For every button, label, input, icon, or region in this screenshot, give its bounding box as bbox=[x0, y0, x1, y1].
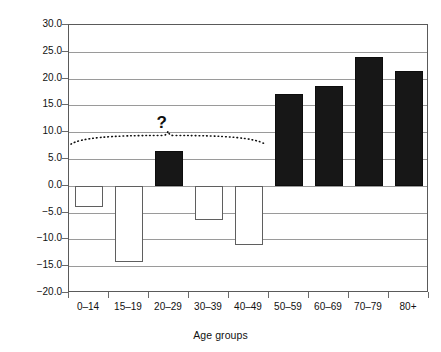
x-tick-label: 15–19 bbox=[108, 301, 148, 313]
bar-80+ bbox=[395, 71, 423, 186]
x-tick-label: 40–49 bbox=[228, 301, 268, 313]
gridline bbox=[69, 52, 427, 53]
y-tick-label: 20.0 bbox=[18, 73, 62, 83]
x-tick-label: 0–14 bbox=[68, 301, 108, 313]
x-tick-mark bbox=[108, 292, 109, 298]
bar-20-29 bbox=[155, 151, 183, 185]
y-tick-mark bbox=[62, 158, 68, 159]
x-tick-label: 20–29 bbox=[148, 301, 188, 313]
x-tick-mark bbox=[388, 292, 389, 298]
x-tick-mark bbox=[428, 292, 429, 298]
question-mark-annotation: ? bbox=[157, 114, 167, 131]
x-tick-mark bbox=[348, 292, 349, 298]
bar-50-59 bbox=[275, 94, 303, 186]
x-tick-mark bbox=[68, 292, 69, 298]
y-tick-mark bbox=[62, 24, 68, 25]
x-tick-mark bbox=[228, 292, 229, 298]
y-tick-label: 25.0 bbox=[18, 46, 62, 56]
x-axis-title: Age groups bbox=[0, 329, 441, 341]
y-tick-mark bbox=[62, 212, 68, 213]
y-tick-label: −15.0 bbox=[18, 260, 62, 270]
x-tick-label: 30–39 bbox=[188, 301, 228, 313]
bar-70-79 bbox=[355, 57, 383, 186]
bar-15-19 bbox=[115, 186, 143, 263]
x-tick-label: 60–69 bbox=[308, 301, 348, 313]
y-tick-label: 10.0 bbox=[18, 126, 62, 136]
y-tick-mark bbox=[62, 131, 68, 132]
y-tick-mark bbox=[62, 238, 68, 239]
bar-0-14 bbox=[75, 186, 103, 207]
y-tick-label: 30.0 bbox=[18, 19, 62, 29]
y-tick-mark bbox=[62, 78, 68, 79]
y-tick-mark bbox=[62, 104, 68, 105]
x-tick-mark bbox=[188, 292, 189, 298]
y-tick-mark bbox=[62, 265, 68, 266]
bar-40-49 bbox=[235, 186, 263, 245]
x-tick-mark bbox=[268, 292, 269, 298]
y-tick-mark bbox=[62, 185, 68, 186]
y-tick-label: −10.0 bbox=[18, 233, 62, 243]
gridline bbox=[69, 266, 427, 267]
y-tick-label: 0.0 bbox=[18, 180, 62, 190]
bar-60-69 bbox=[315, 86, 343, 186]
x-tick-label: 50–59 bbox=[268, 301, 308, 313]
y-tick-label: −20.0 bbox=[18, 287, 62, 297]
x-tick-mark bbox=[308, 292, 309, 298]
bar-30-39 bbox=[195, 186, 223, 220]
x-tick-label: 70–79 bbox=[348, 301, 388, 313]
x-tick-label: 80+ bbox=[388, 301, 428, 313]
bar-chart: Percentage increase or decrease 30.025.0… bbox=[0, 0, 441, 352]
y-tick-mark bbox=[62, 51, 68, 52]
x-tick-mark bbox=[148, 292, 149, 298]
plot-area bbox=[68, 24, 428, 292]
y-tick-label: 5.0 bbox=[18, 153, 62, 163]
y-tick-label: 15.0 bbox=[18, 99, 62, 109]
y-tick-label: −5.0 bbox=[18, 207, 62, 217]
